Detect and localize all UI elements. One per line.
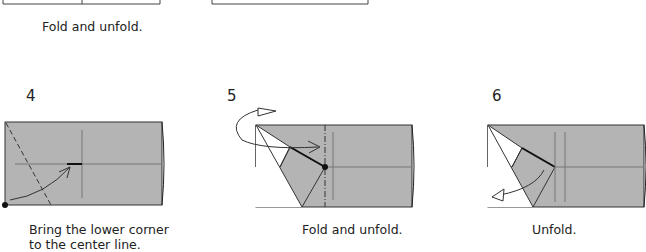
step-5-caption: Fold and unfold. (302, 222, 403, 237)
step-6-caption: Unfold. (532, 222, 577, 237)
step-5-diagram (236, 108, 414, 207)
top-caption: Fold and unfold. (42, 19, 143, 34)
step-number-5: 5 (227, 87, 237, 105)
step-4-caption-line1: Bring the lower corner (29, 222, 169, 237)
step-4-caption-line2: to the center line. (29, 237, 141, 252)
step-4-diagram (2, 122, 164, 208)
step-6-diagram (488, 125, 646, 207)
origami-diagram (0, 0, 646, 252)
step-number-4: 4 (26, 87, 36, 105)
previous-step-boxes (3, 0, 368, 4)
step-number-6: 6 (492, 87, 502, 105)
